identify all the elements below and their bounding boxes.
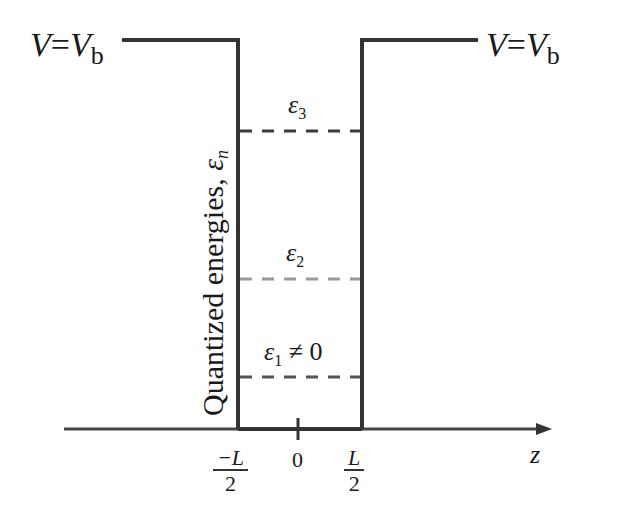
left-potential-label: V=Vb xyxy=(30,28,104,69)
tick-label-zero: 0 xyxy=(292,449,303,471)
tick-denominator: 2 xyxy=(213,471,248,495)
v-symbol: V xyxy=(30,26,51,63)
epsilon-symbol: ε xyxy=(288,90,298,119)
tick-numerator: L xyxy=(344,447,364,471)
well-diagram xyxy=(0,0,617,507)
epsilon-symbol: ε xyxy=(196,159,229,171)
equals-sign: = xyxy=(507,26,526,63)
epsilon-symbol: ε xyxy=(286,238,296,267)
y-axis-text: Quantized energies, xyxy=(196,171,229,416)
v-symbol: V xyxy=(486,26,507,63)
tick-label-l-over-2: L 2 xyxy=(344,447,364,495)
right-potential-label: V=Vb xyxy=(486,28,560,69)
tick-numerator: −L xyxy=(213,447,248,471)
y-axis-label: Quantized energies, εn xyxy=(198,150,231,416)
epsilon-symbol: ε xyxy=(264,337,274,366)
subscript-2: 2 xyxy=(296,253,304,270)
eps1-label: ε1 ≠ 0 xyxy=(264,339,323,369)
tick-label-minus-l-over-2: −L 2 xyxy=(213,447,248,495)
subscript-n: n xyxy=(212,150,232,159)
subscript-b: b xyxy=(547,41,560,70)
not-equal-zero: ≠ 0 xyxy=(282,337,322,366)
subscript-3: 3 xyxy=(298,105,306,122)
right-barrier xyxy=(362,40,478,429)
v-symbol: V xyxy=(70,26,91,63)
equals-sign: = xyxy=(51,26,70,63)
subscript-b: b xyxy=(91,41,104,70)
eps2-label: ε2 xyxy=(286,240,304,270)
tick-denominator: 2 xyxy=(344,471,364,495)
v-symbol: V xyxy=(526,26,547,63)
z-axis-arrowhead xyxy=(536,423,552,435)
z-axis-label: z xyxy=(530,442,540,468)
eps3-label: ε3 xyxy=(288,92,306,122)
